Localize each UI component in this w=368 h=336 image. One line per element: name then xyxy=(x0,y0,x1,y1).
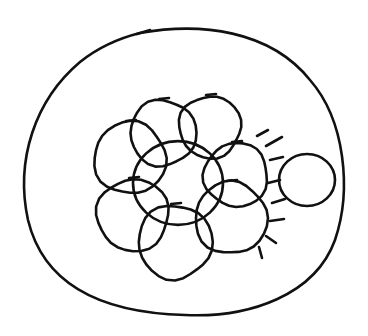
background xyxy=(0,0,368,336)
pen-stroke-mark xyxy=(159,98,169,99)
pen-stroke-mark xyxy=(206,94,216,95)
pen-stroke-mark xyxy=(227,180,237,181)
pen-stroke-mark xyxy=(232,141,242,142)
diagram-canvas xyxy=(0,0,368,336)
pen-stroke-mark xyxy=(171,203,181,204)
diagram-svg xyxy=(0,0,368,336)
